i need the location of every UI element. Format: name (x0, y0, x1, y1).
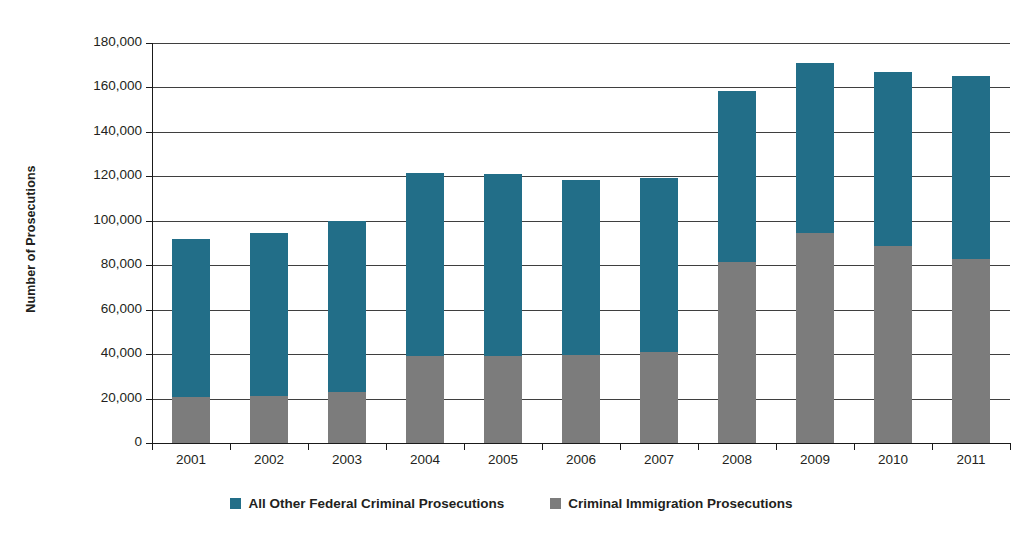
x-axis-label: 2009 (776, 452, 854, 467)
y-axis-label: 100,000 (56, 212, 142, 227)
x-axis-label: 2003 (308, 452, 386, 467)
plot-area: 180,000160,000140,000120,000100,00080,00… (152, 43, 1010, 443)
y-axis-tick (146, 87, 153, 88)
x-axis-label: 2008 (698, 452, 776, 467)
x-axis-label: 2010 (854, 452, 932, 467)
y-axis-title: Number of Prosecutions (24, 124, 38, 354)
x-axis-tick (698, 443, 699, 450)
x-axis-label: 2007 (620, 452, 698, 467)
bar-segment-immigration[interactable] (952, 259, 990, 443)
y-axis-tick (146, 176, 153, 177)
bar-segment-all-other[interactable] (562, 180, 600, 355)
x-axis-tick (230, 443, 231, 450)
y-axis-label: 180,000 (56, 34, 142, 49)
bar-segment-all-other[interactable] (172, 239, 210, 397)
bar-segment-immigration[interactable] (718, 262, 756, 443)
x-axis-tick (854, 443, 855, 450)
x-axis-tick (1010, 443, 1011, 450)
x-axis-label: 2001 (152, 452, 230, 467)
bar-segment-all-other[interactable] (718, 91, 756, 262)
y-axis-tick (146, 132, 153, 133)
bar-segment-all-other[interactable] (250, 233, 288, 395)
bar-segment-immigration[interactable] (796, 233, 834, 443)
x-axis-tick (386, 443, 387, 450)
legend-item-immigration: Criminal Immigration Prosecutions (550, 496, 792, 511)
y-axis-tick (146, 265, 153, 266)
bar-segment-all-other[interactable] (406, 173, 444, 356)
bar-segment-immigration[interactable] (172, 397, 210, 443)
y-axis-label: 140,000 (56, 123, 142, 138)
y-axis-label: 160,000 (56, 78, 142, 93)
legend-item-all-other: All Other Federal Criminal Prosecutions (230, 496, 504, 511)
x-axis-tick (932, 443, 933, 450)
x-axis-label: 2006 (542, 452, 620, 467)
y-axis-label: 60,000 (56, 301, 142, 316)
x-axis-tick (620, 443, 621, 450)
y-axis-tick (146, 399, 153, 400)
x-axis-label: 2004 (386, 452, 464, 467)
x-axis-tick (464, 443, 465, 450)
bar-segment-immigration[interactable] (562, 355, 600, 443)
legend-swatch-icon-all-other (230, 498, 241, 509)
bar-segment-all-other[interactable] (640, 178, 678, 352)
x-axis-label: 2011 (932, 452, 1010, 467)
x-axis-tick (542, 443, 543, 450)
x-axis-label: 2002 (230, 452, 308, 467)
y-axis-tick (146, 310, 153, 311)
x-axis-label: 2005 (464, 452, 542, 467)
y-axis-label: 0 (56, 434, 142, 449)
bar-segment-immigration[interactable] (874, 246, 912, 443)
bar-segment-immigration[interactable] (250, 396, 288, 443)
gridline (152, 43, 1010, 44)
bar-segment-all-other[interactable] (484, 174, 522, 356)
y-axis-label: 80,000 (56, 256, 142, 271)
x-axis-tick (776, 443, 777, 450)
legend-swatch-icon-immigration (550, 498, 561, 509)
y-axis-tick (146, 354, 153, 355)
x-axis-tick (308, 443, 309, 450)
bar-segment-immigration[interactable] (640, 352, 678, 443)
stacked-bar-chart: Number of Prosecutions 180,000160,000140… (0, 0, 1023, 540)
legend-label-all-other: All Other Federal Criminal Prosecutions (248, 496, 504, 511)
legend-label-immigration: Criminal Immigration Prosecutions (568, 496, 792, 511)
bar-segment-all-other[interactable] (796, 63, 834, 233)
gridline (152, 443, 1010, 444)
y-axis-label: 120,000 (56, 167, 142, 182)
bar-segment-all-other[interactable] (328, 221, 366, 392)
bar-segment-all-other[interactable] (874, 72, 912, 246)
y-axis-tick (146, 221, 153, 222)
bar-segment-all-other[interactable] (952, 76, 990, 259)
bar-segment-immigration[interactable] (406, 356, 444, 443)
bar-segment-immigration[interactable] (328, 392, 366, 443)
chart-legend: All Other Federal Criminal Prosecutions … (0, 496, 1023, 511)
x-axis-tick (152, 443, 153, 450)
y-axis-label: 20,000 (56, 390, 142, 405)
chart-title-cropped (125, 0, 885, 2)
bar-segment-immigration[interactable] (484, 356, 522, 443)
y-axis-label: 40,000 (56, 345, 142, 360)
y-axis-tick (146, 43, 153, 44)
